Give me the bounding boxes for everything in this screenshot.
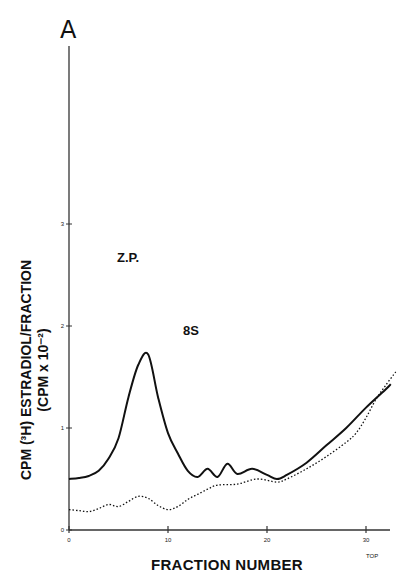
y-axis-label: CPM (³H) ESTRADIOL/FRACTION (CPM x 10⁻²) <box>18 240 52 500</box>
x-tick-label: 30 <box>363 537 370 543</box>
series-group <box>69 353 396 512</box>
series-solid-line <box>69 353 391 479</box>
axes: 01230102030 <box>61 46 390 543</box>
y-tick-label: 2 <box>61 323 65 329</box>
x-tick-label: 0 <box>67 537 71 543</box>
y-tick-label: 3 <box>61 221 65 227</box>
annotation-zp: Z.P. <box>117 250 139 265</box>
annotation-8s: 8S <box>183 323 199 338</box>
plot-area: 01230102030 <box>0 0 411 588</box>
y-tick-label: 0 <box>61 527 65 533</box>
x-tick-label: 20 <box>264 537 271 543</box>
x-tick-label: 10 <box>165 537 172 543</box>
x-axis-label: FRACTION NUMBER <box>0 556 411 573</box>
y-tick-label: 1 <box>61 425 65 431</box>
